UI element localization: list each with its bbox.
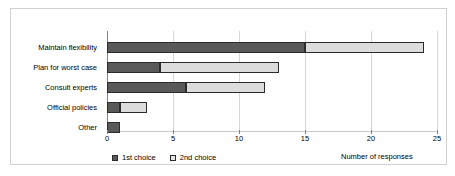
x-tick-label: 10 [224,134,254,144]
bar-segment[interactable] [107,42,305,53]
x-axis-title: Number of responses [341,152,413,162]
chart-legend: 1st choice2nd choice [112,152,216,164]
x-tickmark [107,130,108,134]
bar-segment[interactable] [120,102,146,113]
x-tick-label: 0 [92,134,122,144]
bar-segment[interactable] [107,82,186,93]
chart-frame: Maintain flexibilityPlan for worst caseC… [10,8,447,165]
legend-label: 2nd choice [180,153,216,163]
category-label: Maintain flexibility [11,43,97,52]
bar-segment[interactable] [107,122,120,133]
bar-segment[interactable] [107,102,120,113]
category-label: Other [11,123,97,132]
legend-item[interactable]: 1st choice [112,153,156,163]
x-tickmark [305,130,306,134]
x-axis-tick-labels: 0510152025 [107,134,447,146]
category-label: Consult experts [11,83,97,92]
category-label: Official policies [11,103,97,112]
legend-swatch-icon [170,155,176,161]
bar-segment[interactable] [305,42,424,53]
x-tick-label: 25 [422,134,452,144]
x-tickmark [239,130,240,134]
bar-segment[interactable] [160,62,279,73]
x-tick-label: 15 [290,134,320,144]
x-tick-label: 20 [356,134,386,144]
x-tick-label: 5 [158,134,188,144]
x-tickmark [437,130,438,134]
category-label: Plan for worst case [11,63,97,72]
x-tickmark [371,130,372,134]
gridline [437,31,438,132]
legend-label: 1st choice [122,153,156,163]
bar-segment[interactable] [186,82,265,93]
legend-item[interactable]: 2nd choice [170,153,216,163]
plot-area [107,31,437,132]
y-axis-category-labels: Maintain flexibilityPlan for worst caseC… [11,31,97,132]
x-axis-baseline [107,131,437,132]
legend-swatch-icon [112,155,118,161]
bar-segment[interactable] [107,62,160,73]
x-tickmark [173,130,174,134]
